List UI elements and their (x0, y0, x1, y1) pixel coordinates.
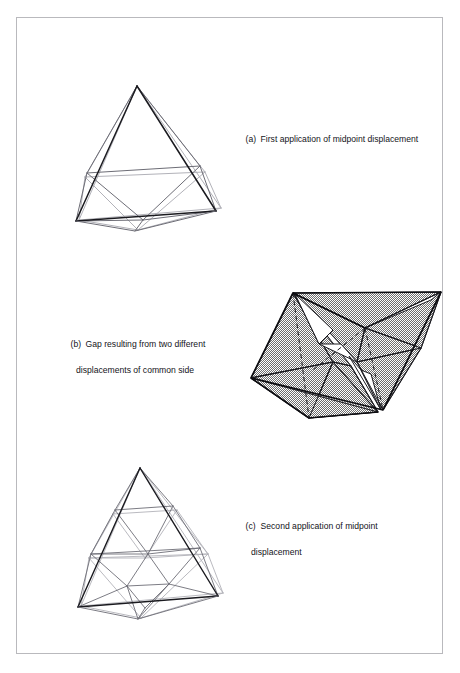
caption-b-tag: (b) (71, 338, 86, 351)
caption-a-tag: (a) (246, 133, 261, 146)
caption-c-line1: Second application of midpoint (261, 521, 378, 531)
caption-b-line1: Gap resulting from two different (86, 339, 206, 349)
caption-b: (b)Gap resulting from two different disp… (61, 325, 205, 403)
caption-c: (c)Second application of midpoint displa… (236, 507, 378, 585)
caption-b-line2: displacements of common side (61, 364, 205, 377)
figure-c-tetrahedron-second-subdivision (45, 458, 235, 623)
figure-frame: (a)First application of midpoint displac… (16, 17, 443, 654)
figure-a-tetrahedron-first-subdivision (45, 80, 230, 232)
running-header-strip: · , , · (0, 0, 460, 13)
caption-c-line2: displacement (236, 546, 378, 559)
caption-a-line1: First application of midpoint displaceme… (261, 134, 419, 144)
figure-b-gap-between-displaced-faces (245, 270, 450, 435)
caption-a: (a)First application of midpoint displac… (236, 120, 418, 159)
caption-c-tag: (c) (246, 520, 261, 533)
